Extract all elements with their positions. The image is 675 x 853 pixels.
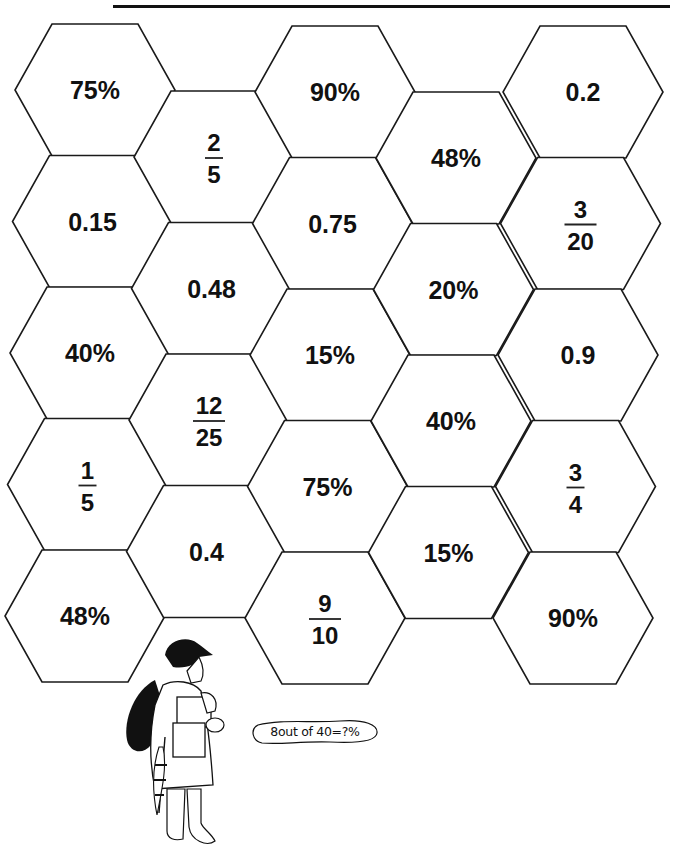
hex-value: 40% — [65, 339, 115, 367]
hex-value: 75% — [70, 76, 120, 104]
hex-value: 0.4 — [189, 538, 224, 566]
speech-bubble-text: 8out of 40=?% — [250, 717, 380, 747]
hex-value: 48% — [60, 602, 110, 630]
hex-value: 0.9 — [561, 341, 596, 369]
hex-value: 90% — [548, 604, 598, 632]
fraction-numerator: 3 — [569, 459, 582, 486]
hex-value: 90% — [310, 78, 360, 106]
fraction-numerator: 3 — [574, 196, 587, 223]
fraction-numerator: 9 — [318, 590, 331, 617]
speech-bubble: 8out of 40=?% — [250, 717, 380, 747]
hex-value: 48% — [431, 144, 481, 172]
hex-value: 15% — [305, 341, 355, 369]
hex-value: 0.75 — [308, 210, 357, 238]
fraction-numerator: 2 — [207, 129, 220, 156]
fraction-denominator: 5 — [81, 489, 94, 516]
hex-value: 0.48 — [187, 275, 236, 303]
girl-illustration — [115, 635, 245, 853]
hex-value: 15% — [423, 539, 473, 567]
hex-value: 75% — [302, 473, 352, 501]
fraction-numerator: 1 — [81, 457, 94, 484]
fraction-denominator: 25 — [196, 424, 223, 451]
fraction-denominator: 20 — [567, 228, 594, 255]
hex-cell: 0.2 — [503, 26, 663, 158]
fraction-numerator: 12 — [196, 392, 223, 419]
fraction-denominator: 5 — [207, 161, 220, 188]
hex-value: 20% — [428, 276, 478, 304]
fraction-denominator: 10 — [312, 622, 339, 649]
hex-value: 0.15 — [68, 208, 117, 236]
hex-value: 0.2 — [566, 78, 601, 106]
hex-value: 40% — [426, 407, 476, 435]
fraction-denominator: 4 — [569, 491, 583, 518]
